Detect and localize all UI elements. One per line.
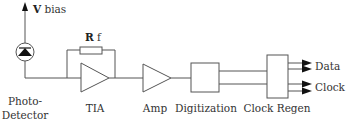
- photodetector-label-line1: Photo-: [8, 95, 43, 107]
- clock-regen-label: Clock Regen: [243, 102, 310, 114]
- amp-icon: [143, 64, 171, 92]
- clock-output-arrows-icon: [288, 81, 312, 95]
- vbias-label: V bias: [32, 3, 66, 15]
- clock-output-label: Clock: [315, 81, 346, 93]
- amp-label: Amp: [142, 102, 168, 114]
- data-output-label: Data: [315, 60, 340, 72]
- digitization-block: [191, 63, 219, 92]
- data-output-arrows-icon: [288, 60, 312, 73]
- photodiode-icon: [16, 43, 34, 78]
- tia-amplifier-icon: [81, 63, 109, 92]
- clock-regen-block: [267, 55, 288, 98]
- block-diagram: V bias R f Data: [0, 0, 358, 126]
- vbias-arrow-icon: [22, 2, 28, 43]
- tia-label: TIA: [86, 102, 105, 114]
- photodetector-label-line2: Detector: [2, 109, 49, 121]
- rf-label: R f: [85, 31, 102, 43]
- digitization-label: Digitization: [175, 102, 237, 114]
